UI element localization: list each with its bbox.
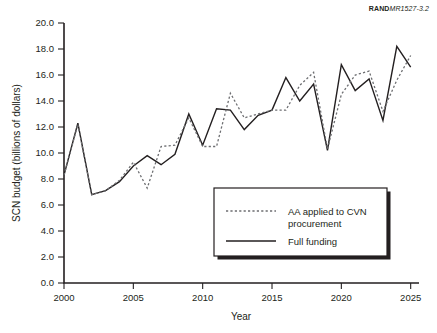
x-tick-label: 2010 xyxy=(192,292,213,303)
legend-item-label: Full funding xyxy=(288,236,337,247)
y-tick-label: 18.0 xyxy=(36,43,55,54)
legend-item-label-line2: procurement xyxy=(288,218,342,229)
x-axis-title: Year xyxy=(231,311,252,322)
y-axis-ticks: 0.02.04.06.08.010.012.014.016.018.020.0 xyxy=(36,17,65,288)
figure-id-brand: RAND xyxy=(369,5,390,12)
y-tick-label: 8.0 xyxy=(41,173,54,184)
x-tick-label: 2025 xyxy=(400,292,421,303)
series-line-dotted xyxy=(64,56,411,195)
plot-series-group xyxy=(64,46,411,194)
y-tick-label: 4.0 xyxy=(41,225,54,236)
y-tick-label: 16.0 xyxy=(36,69,55,80)
y-tick-label: 0.0 xyxy=(41,277,54,288)
chart-figure: RANDMR1527-3.2 SCN budget (billions of d… xyxy=(0,0,437,333)
series-line-solid xyxy=(64,46,411,194)
x-tick-label: 2000 xyxy=(53,292,74,303)
x-tick-label: 2015 xyxy=(261,292,282,303)
line-chart: SCN budget (billions of dollars) Year 0.… xyxy=(0,0,437,333)
y-tick-label: 12.0 xyxy=(36,121,55,132)
y-tick-label: 2.0 xyxy=(41,251,54,262)
y-tick-label: 20.0 xyxy=(36,17,55,28)
figure-id: RANDMR1527-3.2 xyxy=(369,5,429,12)
y-tick-label: 10.0 xyxy=(36,147,55,158)
x-axis-ticks: 200020052010201520202025 xyxy=(53,283,421,303)
x-tick-label: 2020 xyxy=(331,292,352,303)
figure-id-number: MR1527-3.2 xyxy=(389,5,429,12)
chart-legend: AA applied to CVNprocurementFull funding xyxy=(214,188,391,260)
y-tick-label: 14.0 xyxy=(36,95,55,106)
legend-item-label: AA applied to CVN xyxy=(288,206,367,217)
y-tick-label: 6.0 xyxy=(41,199,54,210)
x-tick-label: 2005 xyxy=(123,292,144,303)
y-axis-title: SCN budget (billions of dollars) xyxy=(11,84,22,222)
